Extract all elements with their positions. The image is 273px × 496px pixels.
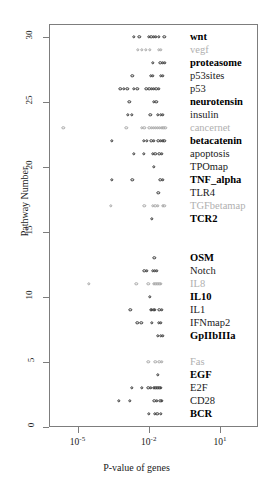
pathway-label: TPOmap xyxy=(190,162,228,173)
x-axis-tick-label: 10-2 xyxy=(141,435,156,447)
y-axis-tick-label: 15 xyxy=(0,225,33,235)
x-axis-tick xyxy=(78,427,79,433)
pathway-label: TNF_alpha xyxy=(190,175,241,186)
pathway-label: BCR xyxy=(190,409,212,420)
pathway-label: TCR2 xyxy=(190,214,217,225)
pathway-label: betacatenin xyxy=(190,136,242,147)
y-axis-tick-label: 30 xyxy=(0,30,33,40)
pathway-label: TGFbetamap xyxy=(190,201,245,212)
pathway-label: p53 xyxy=(190,84,206,95)
x-axis-tick xyxy=(220,427,221,433)
y-axis-title: Pathway Number xyxy=(19,132,30,272)
pathway-label: proteasome xyxy=(190,58,242,69)
y-axis-tick xyxy=(43,232,49,233)
y-axis-tick-label: 5 xyxy=(0,355,33,365)
pathway-label: IFNmap2 xyxy=(190,318,230,329)
pathway-label: neurotensin xyxy=(190,97,243,108)
y-axis-tick xyxy=(43,167,49,168)
pathway-label: IL10 xyxy=(190,292,212,303)
y-axis-tick xyxy=(43,37,49,38)
pathway-label: CD28 xyxy=(190,396,215,407)
pathway-label: E2F xyxy=(190,383,208,394)
pathway-label: vegf xyxy=(190,45,209,56)
pathway-label: apoptosis xyxy=(190,149,230,160)
pathway-label: p53sites xyxy=(190,71,224,82)
x-axis-tick-label: 10-5 xyxy=(70,435,85,447)
pathway-label: GpIIbIIIa xyxy=(190,331,236,342)
pathway-label: TLR4 xyxy=(190,188,215,199)
scatter-plot-figure: Pathway Number P-value of genes wntvegfp… xyxy=(0,0,273,496)
y-axis-tick xyxy=(43,102,49,103)
pathway-label: insulin xyxy=(190,110,219,121)
pathway-label: cancernet xyxy=(190,123,230,134)
pathway-label: Fas xyxy=(190,357,205,368)
pathway-label: EGF xyxy=(190,370,212,381)
pathway-label: IL8 xyxy=(190,279,205,290)
y-axis-tick-label: 25 xyxy=(0,95,33,105)
x-axis-tick-label: 101 xyxy=(214,435,227,447)
pathway-label: Notch xyxy=(190,266,216,277)
y-axis-tick xyxy=(43,362,49,363)
pathway-label: wnt xyxy=(190,32,207,43)
pathway-label: OSM xyxy=(190,253,214,264)
y-axis-tick-label: 0 xyxy=(0,420,33,430)
y-axis-tick-label: 10 xyxy=(0,290,33,300)
y-axis-tick xyxy=(43,297,49,298)
x-axis-title: P-value of genes xyxy=(0,462,273,473)
y-axis-tick-label: 20 xyxy=(0,160,33,170)
x-axis-tick xyxy=(149,427,150,433)
pathway-label: IL1 xyxy=(190,305,205,316)
plot-area-frame xyxy=(49,24,258,427)
y-axis-tick xyxy=(43,427,49,428)
